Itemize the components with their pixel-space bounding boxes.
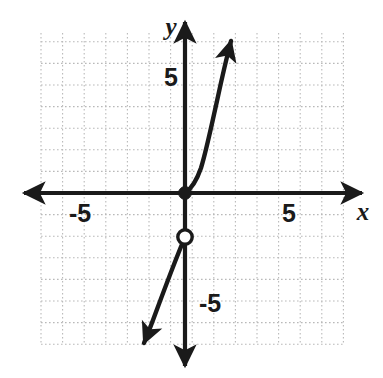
x-axis-tick-label-positive-five: 5 (282, 199, 296, 227)
graph-figure: -5 5 5 -5 y x (0, 0, 383, 378)
open-point-marker (178, 230, 192, 244)
y-axis-tick-label-positive-five: 5 (164, 63, 178, 91)
x-axis-name-label: x (356, 198, 370, 225)
closed-point-marker (179, 187, 192, 200)
y-axis-tick-label-negative-five: -5 (199, 289, 221, 317)
y-axis-name-label: y (162, 13, 177, 40)
coordinate-plane-svg: -5 5 5 -5 y x (0, 0, 383, 378)
lower-branch-curve (144, 237, 185, 343)
x-axis-tick-label-negative-five: -5 (69, 199, 91, 227)
